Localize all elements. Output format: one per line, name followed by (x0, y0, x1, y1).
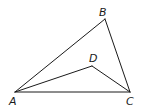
label-point-a: A (8, 95, 17, 108)
label-point-d: D (89, 52, 97, 65)
segment-dc (92, 66, 130, 92)
segment-ad (15, 66, 92, 92)
segment-bc (105, 19, 130, 92)
label-point-c: C (126, 95, 134, 108)
label-point-b: B (99, 6, 107, 19)
geometry-diagram: A B C D (0, 0, 145, 109)
